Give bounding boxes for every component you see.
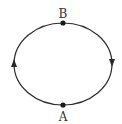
orbit-ellipse <box>14 23 112 105</box>
arrow-up-icon <box>11 59 17 67</box>
label-a: A <box>58 110 68 124</box>
point-a <box>60 102 65 107</box>
arrow-down-icon <box>109 59 115 67</box>
diagram-canvas: B A <box>0 0 122 124</box>
label-b: B <box>59 7 68 21</box>
orbit-diagram: B A <box>0 0 122 124</box>
point-b <box>60 20 65 25</box>
